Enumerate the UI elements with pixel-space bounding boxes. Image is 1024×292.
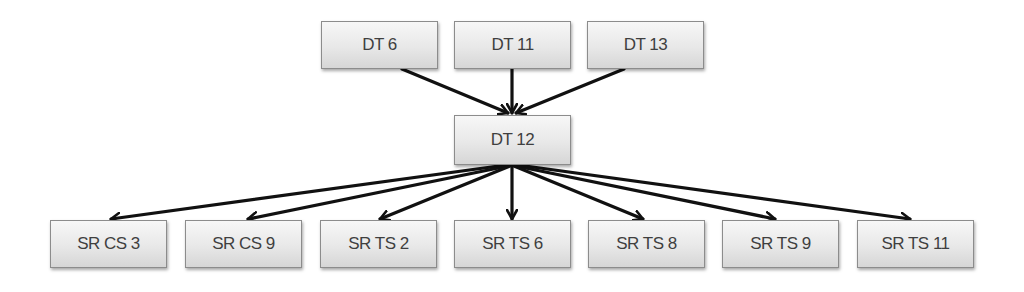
node-dt6[interactable]: DT 6 (321, 21, 438, 69)
node-dt13[interactable]: DT 13 (587, 21, 704, 69)
edge-dt6-dt12 (402, 69, 508, 113)
node-dt12[interactable]: DT 12 (454, 115, 571, 165)
dependency-diagram: DT 6 DT 11 DT 13 DT 12 SR CS 3 SR CS 9 S… (0, 0, 1024, 292)
node-sr-cs-3[interactable]: SR CS 3 (50, 220, 167, 268)
edge-dt12-srcs9 (248, 166, 508, 219)
node-label: SR TS 2 (348, 234, 408, 254)
node-label: SR CS 9 (212, 234, 275, 254)
node-label: DT 11 (491, 35, 533, 55)
node-label: SR TS 8 (616, 234, 676, 254)
node-sr-cs-9[interactable]: SR CS 9 (185, 220, 302, 268)
edge-dt13-dt12 (516, 69, 624, 113)
node-label: SR CS 3 (77, 234, 140, 254)
node-label: DT 6 (362, 35, 397, 55)
node-label: SR TS 9 (750, 234, 810, 254)
node-sr-ts-11[interactable]: SR TS 11 (857, 220, 974, 268)
node-label: DT 12 (491, 130, 535, 150)
edge-dt12-srts11 (518, 165, 910, 219)
node-dt11[interactable]: DT 11 (454, 21, 571, 69)
node-sr-ts-6[interactable]: SR TS 6 (454, 220, 571, 268)
node-label: SR TS 6 (482, 234, 542, 254)
edge-dt12-srts9 (516, 166, 775, 219)
node-sr-ts-9[interactable]: SR TS 9 (722, 220, 839, 268)
node-label: SR TS 11 (881, 234, 949, 254)
node-sr-ts-2[interactable]: SR TS 2 (320, 220, 437, 268)
edge-dt12-srts8 (514, 166, 643, 219)
node-sr-ts-8[interactable]: SR TS 8 (588, 220, 705, 268)
edge-dt12-srts2 (380, 166, 510, 219)
edge-dt12-srcs3 (111, 165, 506, 219)
node-label: DT 13 (624, 35, 668, 55)
